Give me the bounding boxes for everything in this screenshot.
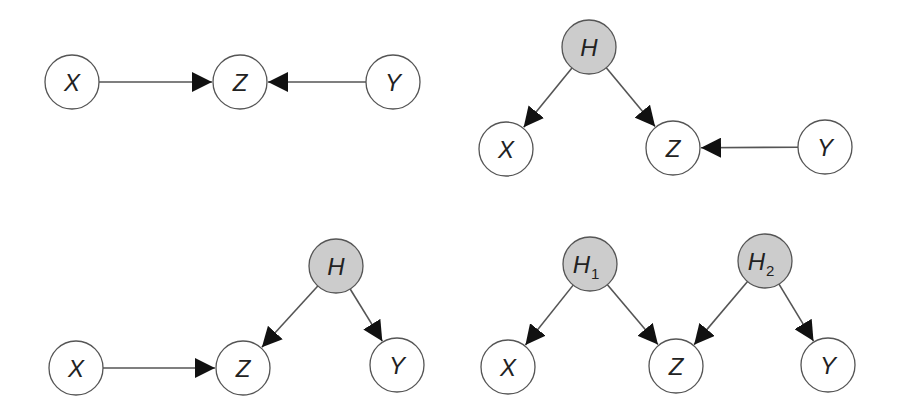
graph-3: HXZY — [49, 239, 424, 395]
edge-h1-to-z — [607, 285, 658, 345]
node-subscript: 2 — [766, 262, 774, 279]
graph-2: HXZY — [479, 20, 852, 176]
node-label: Y — [820, 352, 838, 379]
node-h-hidden: H — [309, 239, 363, 293]
node-label: X — [63, 69, 81, 96]
node-z: Z — [216, 341, 270, 395]
node-circle — [738, 234, 792, 288]
edge-h2-to-z — [694, 282, 747, 345]
edge-h-to-z — [262, 286, 318, 347]
node-y: Y — [798, 120, 852, 174]
edge-y-to-z — [701, 147, 798, 148]
node-z: Z — [649, 339, 703, 393]
node-y: Y — [801, 338, 855, 392]
node-h2-hidden: H2 — [738, 234, 792, 288]
edge-h-to-y — [350, 289, 382, 341]
node-circle — [563, 237, 617, 291]
node-y: Y — [370, 338, 424, 392]
edge-h2-to-y — [779, 284, 814, 341]
node-x: X — [49, 341, 103, 395]
node-label: H — [327, 253, 345, 280]
node-x: X — [45, 55, 99, 109]
node-label: H — [580, 34, 598, 61]
graph-1: XZY — [45, 55, 420, 109]
node-x: X — [479, 122, 533, 176]
edge-h-to-z — [606, 68, 655, 127]
causal-graphs-diagram: XZYHXZYHXZYH1H2XZY — [0, 0, 900, 419]
node-label: Z — [668, 353, 685, 380]
node-z: Z — [213, 55, 267, 109]
node-label: Z — [235, 355, 252, 382]
edge-h1-to-x — [525, 285, 573, 345]
node-h-hidden: H — [562, 20, 616, 74]
node-label: Z — [665, 135, 682, 162]
node-h1-hidden: H1 — [563, 237, 617, 291]
node-label: X — [499, 354, 517, 381]
node-label: Y — [389, 352, 407, 379]
node-label: Z — [232, 69, 249, 96]
graph-4: H1H2XZY — [481, 234, 855, 394]
node-label: X — [497, 136, 515, 163]
node-label: X — [67, 355, 85, 382]
node-subscript: 1 — [591, 265, 599, 282]
node-x: X — [481, 340, 535, 394]
node-label: Y — [817, 134, 835, 161]
edge-h-to-x — [524, 68, 572, 127]
node-label: Y — [385, 69, 403, 96]
node-y: Y — [366, 55, 420, 109]
graphs-root: XZYHXZYHXZYH1H2XZY — [45, 20, 855, 395]
node-z: Z — [646, 121, 700, 175]
